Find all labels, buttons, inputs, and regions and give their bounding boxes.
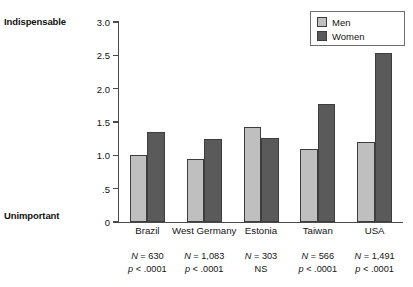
bar-group	[187, 22, 222, 222]
annotation-p-value: p < .0001	[299, 263, 338, 276]
legend-label-women: Women	[332, 31, 365, 42]
x-axis-label-west-germany: West Germany	[172, 225, 236, 236]
x-axis-label-estonia: Estonia	[245, 225, 277, 236]
annotation-taiwan: N = 566p < .0001	[299, 250, 338, 275]
bar-women-brazil	[147, 132, 165, 222]
bar-men-west-germany	[187, 159, 205, 222]
axis-anchor-high-label: Indispensable	[4, 16, 66, 27]
annotation-p-value: p < .0001	[184, 263, 224, 276]
annotation-west-germany: N = 1,083p < .0001	[184, 250, 224, 275]
bar-group	[244, 22, 279, 222]
annotation-sample-size: N = 630	[131, 251, 163, 261]
x-axis-label-usa: USA	[365, 225, 385, 236]
bar-women-usa	[375, 53, 393, 222]
x-axis-label-brazil: Brazil	[135, 225, 159, 236]
legend-swatch-men-icon	[317, 17, 327, 27]
bar-women-estonia	[261, 138, 279, 222]
bar-men-brazil	[130, 155, 148, 222]
annotation-sample-size: N = 303	[245, 251, 277, 261]
bar-men-estonia	[244, 127, 262, 222]
annotation-p-value: p < .0001	[128, 263, 167, 276]
bar-men-usa	[357, 142, 375, 222]
x-axis-category-labels: BrazilWest GermanyEstoniaTaiwanUSA	[119, 225, 403, 241]
bar-group	[130, 22, 165, 222]
annotation-brazil: N = 630p < .0001	[128, 250, 167, 275]
bar-group	[357, 22, 392, 222]
y-axis-tick-label: .5	[86, 183, 110, 194]
y-axis-tick-label: 3.0	[86, 17, 110, 28]
x-axis-line	[118, 222, 403, 223]
bar-women-west-germany	[204, 139, 222, 222]
annotation-p-value: p < .0001	[355, 263, 395, 276]
legend-swatch-women-icon	[317, 31, 327, 41]
chart-legend: Men Women	[310, 11, 405, 46]
y-axis-tick-label: 2.0	[86, 83, 110, 94]
bar-group	[300, 22, 335, 222]
group-statistics-annotations: N = 630p < .0001N = 1,083p < .0001N = 30…	[119, 250, 403, 280]
annotation-sample-size: N = 1,491	[355, 251, 395, 261]
legend-item-women: Women	[317, 29, 404, 43]
legend-label-men: Men	[332, 17, 350, 28]
bar-women-taiwan	[318, 104, 336, 222]
legend-item-men: Men	[317, 15, 404, 29]
annotation-usa: N = 1,491p < .0001	[355, 250, 395, 275]
annotation-estonia: N = 303NS	[245, 250, 277, 275]
axis-anchor-low-label: Unimportant	[4, 210, 59, 221]
bar-men-taiwan	[300, 149, 318, 222]
y-axis-tick-label: 1.5	[86, 117, 110, 128]
y-axis-tick-label: 0	[86, 217, 110, 228]
annotation-sample-size: N = 1,083	[184, 251, 224, 261]
plot-area	[119, 22, 403, 222]
y-axis-tick-label: 1.0	[86, 150, 110, 161]
annotation-sample-size: N = 566	[302, 251, 334, 261]
annotation-p-value: NS	[245, 263, 277, 276]
x-axis-label-taiwan: Taiwan	[303, 225, 333, 236]
y-axis-tick-label: 2.5	[86, 50, 110, 61]
